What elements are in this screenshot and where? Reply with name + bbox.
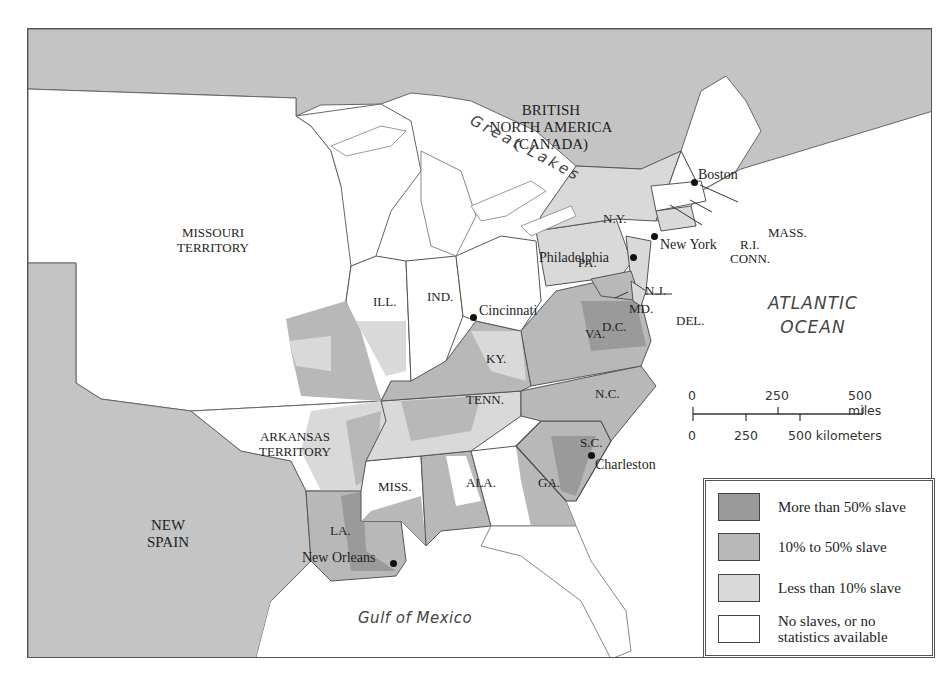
legend-label: No slaves, or no statistics available	[778, 613, 888, 645]
legend-swatch-more-than-50	[718, 493, 760, 521]
scale-miles-250: 250	[765, 388, 789, 403]
legend-label: Less than 10% slave	[778, 580, 901, 596]
scale-miles-0: 0	[688, 388, 696, 403]
legend-swatch-no-slaves	[718, 615, 760, 643]
scale-bar: 0 250 500 miles 0 250 500 kilometers	[688, 388, 908, 448]
legend-swatch-10-to-50	[718, 533, 760, 561]
legend-item: More than 50% slave	[718, 493, 906, 521]
legend-swatch-less-than-10	[718, 574, 760, 602]
scale-km-500: 500 kilometers	[788, 428, 882, 443]
legend-item: No slaves, or no statistics available	[718, 613, 888, 645]
legend-label: More than 50% slave	[778, 499, 906, 515]
legend-item: Less than 10% slave	[718, 574, 901, 602]
legend-label: 10% to 50% slave	[778, 539, 887, 555]
legend: More than 50% slave 10% to 50% slave Les…	[703, 478, 935, 658]
scale-km-0: 0	[688, 428, 696, 443]
legend-item: 10% to 50% slave	[718, 533, 887, 561]
scale-km-250: 250	[734, 428, 758, 443]
